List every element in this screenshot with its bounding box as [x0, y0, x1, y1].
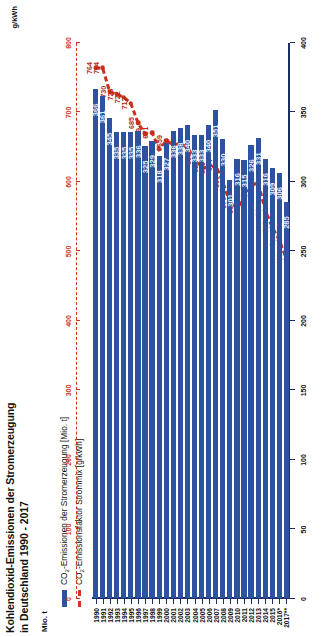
category-axis-label: 1992	[106, 608, 113, 623]
value-axis-tick	[290, 320, 295, 321]
category-axis-tick	[117, 599, 118, 604]
secondary-axis-line	[76, 43, 77, 599]
category-axis-tick	[272, 599, 273, 604]
emission-factor-point	[129, 101, 134, 106]
emission-factor-value-label: 713	[120, 97, 129, 109]
bar-value-label: 340	[204, 140, 213, 153]
bar	[227, 180, 232, 598]
category-axis-label: 1991	[99, 608, 106, 623]
value-axis-tick-label: 250	[300, 246, 307, 258]
value-axis-tick	[290, 181, 295, 182]
bar	[100, 96, 105, 598]
bar-value-label: 329	[148, 155, 157, 168]
secondary-axis-tick-label: 300	[65, 385, 72, 397]
category-axis-tick	[110, 599, 111, 604]
category-axis-label: 2005	[198, 608, 205, 623]
bar	[128, 132, 133, 598]
bar	[142, 146, 147, 598]
category-axis-tick	[223, 599, 224, 604]
bar-value-label: 315	[240, 174, 249, 187]
category-axis-tick	[286, 599, 287, 604]
secondary-axis-tick-label: 100	[65, 524, 72, 536]
category-axis-label: 2001	[170, 608, 177, 623]
emission-factor-point	[100, 66, 105, 71]
category-axis-label: 2002	[177, 608, 184, 623]
category-axis-tick	[216, 599, 217, 604]
category-axis-label: 1990	[92, 608, 99, 623]
category-axis-label: 2004	[191, 608, 198, 623]
bar	[185, 125, 190, 598]
category-axis-tick	[152, 599, 153, 604]
chart-canvas: Kohlendioxid-Emissionen der Stromerzeugu…	[0, 0, 321, 637]
category-axis-label: 1999	[156, 608, 163, 623]
value-axis-tick-label: 300	[300, 176, 307, 188]
secondary-axis-tick-label: 800	[65, 37, 72, 49]
legend-item-emission-factor: CO2-Emissionsfaktor Strommix [g/kWh]	[73, 417, 86, 607]
category-axis-tick	[145, 599, 146, 604]
bar	[149, 141, 154, 598]
bar	[192, 135, 197, 598]
category-axis-label: 2003	[184, 608, 191, 623]
value-axis-tick	[290, 598, 295, 599]
bar	[93, 89, 98, 598]
category-axis-tick	[209, 599, 210, 604]
bar-value-label: 336	[134, 145, 143, 158]
category-axis-tick	[159, 599, 160, 604]
bar-value-label: 331	[254, 152, 263, 165]
bar-value-label: 330	[219, 154, 228, 167]
category-axis-label: 2014	[262, 608, 269, 623]
secondary-axis-tick	[76, 181, 80, 182]
category-axis-label: 2012	[248, 608, 255, 623]
category-axis-label: 2007	[212, 608, 219, 623]
value-axis-tick	[290, 112, 295, 113]
emission-factor-value-label: 764	[92, 62, 101, 74]
value-axis-tick-label: 200	[300, 315, 307, 327]
emission-factor-value-label: 671	[141, 127, 150, 139]
category-axis-tick	[166, 599, 167, 604]
category-axis-tick	[138, 599, 139, 604]
bar	[256, 138, 261, 598]
legend-emissions-pre: CO	[59, 572, 69, 585]
chart-legend: CO2-Emissionen der Stromerzeugung [Mio. …	[58, 417, 88, 607]
bar-value-label: 306	[275, 187, 284, 200]
bar	[241, 160, 246, 598]
secondary-axis-tick-label: 0	[65, 597, 72, 601]
bar	[114, 132, 119, 598]
secondary-axis-tick-label: 700	[65, 107, 72, 119]
category-axis-tick	[244, 599, 245, 604]
chart-title-line2: in Deutschland 1990 - 2017	[18, 333, 32, 633]
value-axis-tick	[290, 459, 295, 460]
category-axis-tick	[258, 599, 259, 604]
category-axis-tick	[131, 599, 132, 604]
category-axis-label: 2013	[255, 608, 262, 623]
legend-item-emissions: CO2-Emissionen der Stromerzeugung [Mio. …	[58, 417, 71, 607]
category-axis-label: 2017**	[283, 608, 290, 628]
secondary-axis-tick	[76, 320, 80, 321]
bar-value-label: 361	[98, 111, 107, 124]
value-axis-tick	[290, 251, 295, 252]
secondary-axis-tick	[76, 112, 80, 113]
bar	[206, 125, 211, 598]
secondary-axis-tick-label: 600	[65, 176, 72, 188]
legend-emissions-sub: 2	[64, 569, 70, 572]
category-axis-label: 1993	[113, 608, 120, 623]
category-axis-label: 2008	[219, 608, 226, 623]
emission-factor-point	[157, 147, 162, 152]
legend-factor-sub: 2	[79, 569, 85, 572]
chart-title: Kohlendioxid-Emissionen der Stromerzeugu…	[4, 333, 32, 633]
value-axis-tick	[290, 529, 295, 530]
secondary-axis-tick	[76, 390, 80, 391]
category-axis-label: 2006	[205, 608, 212, 623]
category-axis-label: 1995	[127, 608, 134, 623]
category-axis-tick	[279, 599, 280, 604]
secondary-axis-tick	[76, 459, 80, 460]
category-axis-tick	[237, 599, 238, 604]
bar	[284, 202, 289, 598]
secondary-axis-tick	[76, 529, 80, 530]
value-axis-tick	[290, 42, 295, 43]
category-axis-label: 2016*	[276, 608, 283, 625]
category-axis-tick	[195, 599, 196, 604]
category-axis-tick	[173, 599, 174, 604]
bar	[270, 169, 275, 599]
category-axis-tick	[202, 599, 203, 604]
